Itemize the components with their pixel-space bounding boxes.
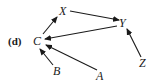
edge-y-to-c: [45, 26, 117, 39]
node-b: B: [53, 64, 61, 78]
node-c: C: [33, 34, 42, 48]
node-a: A: [95, 69, 104, 82]
node-y: Y: [119, 16, 127, 30]
edges-group: [40, 11, 141, 70]
node-x: X: [58, 4, 67, 18]
edge-b-to-c: [40, 49, 53, 65]
edge-c-to-x: [43, 17, 57, 34]
node-z: Z: [139, 56, 146, 70]
edge-x-to-y: [70, 11, 119, 20]
panel-label: (d): [8, 35, 22, 48]
edge-z-to-y: [127, 29, 141, 57]
directed-graph-diagram: (d) C X Y Z B A: [0, 0, 155, 82]
